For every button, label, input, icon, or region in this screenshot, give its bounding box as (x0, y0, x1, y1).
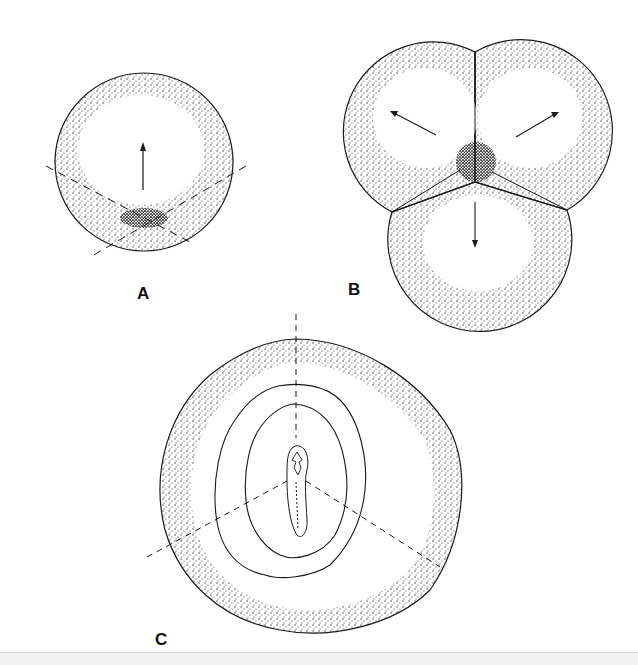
panel-a (46, 73, 246, 256)
bottom-bar (0, 652, 638, 665)
panel-c (147, 314, 462, 633)
panel-b (343, 40, 612, 332)
panel-label-a: A (137, 284, 149, 304)
panel-label-b: B (348, 280, 360, 300)
panel-label-c: C (155, 630, 167, 650)
